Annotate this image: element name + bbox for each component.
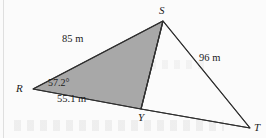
vertex-label-Y: Y [138,112,144,123]
side-label-RS: 85 m [62,34,83,45]
segment-YT [141,109,250,128]
segment-ST [163,21,250,128]
side-label-ST: 96 m [199,53,220,64]
vertex-label-R: R [16,83,23,94]
shaded-triangle-RSY [33,21,163,109]
vertex-label-T: T [254,122,260,133]
side-label-RY: 55.1 m [57,94,86,105]
triangle-drawing [0,0,266,138]
geometry-figure: R S Y T 85 m 55.1 m 96 m 57.2° [0,0,266,138]
vertex-label-S: S [159,5,165,16]
angle-label-R: 57.2° [48,78,70,88]
